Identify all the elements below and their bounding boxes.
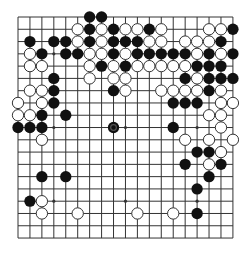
board-intersection[interactable] [215, 134, 227, 146]
board-intersection[interactable] [143, 85, 155, 97]
board-intersection[interactable] [131, 109, 143, 121]
board-intersection[interactable] [155, 146, 167, 158]
board-intersection[interactable] [227, 11, 239, 23]
board-intersection[interactable] [36, 220, 48, 232]
board-intersection[interactable] [155, 220, 167, 232]
board-intersection[interactable] [48, 121, 60, 133]
board-intersection[interactable] [131, 97, 143, 109]
board-intersection[interactable] [108, 97, 120, 109]
board-intersection[interactable] [24, 171, 36, 183]
board-intersection[interactable] [96, 134, 108, 146]
board-intersection[interactable] [60, 195, 72, 207]
board-intersection[interactable] [167, 171, 179, 183]
board-intersection[interactable] [203, 207, 215, 219]
board-intersection[interactable] [143, 121, 155, 133]
board-intersection[interactable] [227, 158, 239, 170]
board-intersection[interactable] [179, 121, 191, 133]
board-intersection[interactable] [84, 171, 96, 183]
board-intersection[interactable] [167, 232, 179, 244]
board-intersection[interactable] [36, 23, 48, 35]
board-intersection[interactable] [167, 146, 179, 158]
board-intersection[interactable] [12, 85, 24, 97]
board-intersection[interactable] [60, 60, 72, 72]
board-intersection[interactable] [96, 85, 108, 97]
board-intersection[interactable] [36, 11, 48, 23]
board-intersection[interactable] [60, 158, 72, 170]
board-intersection[interactable] [155, 72, 167, 84]
board-intersection[interactable] [119, 109, 131, 121]
board-intersection[interactable] [131, 85, 143, 97]
board-intersection[interactable] [143, 146, 155, 158]
board-intersection[interactable] [227, 35, 239, 47]
board-intersection[interactable] [227, 121, 239, 133]
board-intersection[interactable] [84, 134, 96, 146]
board-intersection[interactable] [108, 220, 120, 232]
board-intersection[interactable] [131, 195, 143, 207]
board-intersection[interactable] [155, 109, 167, 121]
board-intersection[interactable] [155, 97, 167, 109]
board-intersection[interactable] [203, 97, 215, 109]
board-intersection[interactable] [131, 171, 143, 183]
board-intersection[interactable] [155, 158, 167, 170]
board-intersection[interactable] [72, 171, 84, 183]
board-intersection[interactable] [131, 220, 143, 232]
board-intersection[interactable] [143, 134, 155, 146]
board-intersection[interactable] [72, 97, 84, 109]
board-intersection[interactable] [131, 158, 143, 170]
board-intersection[interactable] [215, 232, 227, 244]
board-intersection[interactable] [167, 134, 179, 146]
board-intersection[interactable] [143, 11, 155, 23]
board-intersection[interactable] [143, 171, 155, 183]
board-intersection[interactable] [60, 183, 72, 195]
board-intersection[interactable] [12, 207, 24, 219]
board-intersection[interactable] [60, 23, 72, 35]
board-intersection[interactable] [119, 232, 131, 244]
board-intersection[interactable] [179, 23, 191, 35]
board-intersection[interactable] [84, 183, 96, 195]
board-intersection[interactable] [215, 11, 227, 23]
board-intersection[interactable] [60, 220, 72, 232]
board-intersection[interactable] [131, 146, 143, 158]
board-intersection[interactable] [108, 171, 120, 183]
board-intersection[interactable] [12, 23, 24, 35]
board-intersection[interactable] [167, 23, 179, 35]
board-intersection[interactable] [108, 146, 120, 158]
board-intersection[interactable] [167, 195, 179, 207]
board-intersection[interactable] [84, 195, 96, 207]
board-intersection[interactable] [12, 72, 24, 84]
board-intersection[interactable] [227, 146, 239, 158]
board-intersection[interactable] [48, 158, 60, 170]
board-intersection[interactable] [48, 60, 60, 72]
board-intersection[interactable] [60, 11, 72, 23]
board-intersection[interactable] [60, 121, 72, 133]
board-intersection[interactable] [12, 35, 24, 47]
board-intersection[interactable] [12, 220, 24, 232]
board-intersection[interactable] [12, 183, 24, 195]
board-intersection[interactable] [96, 121, 108, 133]
board-intersection[interactable] [60, 85, 72, 97]
board-intersection[interactable] [227, 183, 239, 195]
board-intersection[interactable] [48, 109, 60, 121]
board-intersection[interactable] [191, 11, 203, 23]
board-intersection[interactable] [179, 183, 191, 195]
board-intersection[interactable] [96, 146, 108, 158]
board-intersection[interactable] [12, 134, 24, 146]
board-intersection[interactable] [60, 97, 72, 109]
board-intersection[interactable] [215, 183, 227, 195]
board-intersection[interactable] [167, 109, 179, 121]
board-intersection[interactable] [36, 72, 48, 84]
board-intersection[interactable] [191, 232, 203, 244]
board-intersection[interactable] [131, 134, 143, 146]
board-intersection[interactable] [48, 48, 60, 60]
board-intersection[interactable] [179, 207, 191, 219]
board-intersection[interactable] [191, 158, 203, 170]
board-intersection[interactable] [36, 146, 48, 158]
board-intersection[interactable] [84, 220, 96, 232]
board-intersection[interactable] [131, 232, 143, 244]
board-intersection[interactable] [96, 72, 108, 84]
board-intersection[interactable] [167, 72, 179, 84]
board-intersection[interactable] [72, 232, 84, 244]
board-intersection[interactable] [84, 158, 96, 170]
board-intersection[interactable] [72, 183, 84, 195]
board-intersection[interactable] [143, 232, 155, 244]
